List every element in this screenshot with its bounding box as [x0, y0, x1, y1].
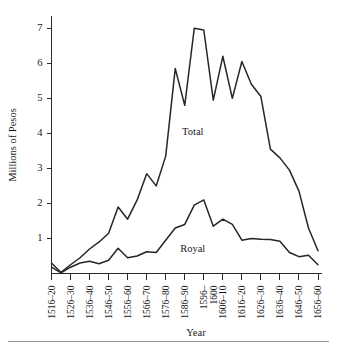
- y-tick-label: 7: [37, 22, 42, 33]
- series-annotation-group: TotalRoyal: [180, 126, 205, 254]
- x-tick-label: 1636–40: [275, 285, 285, 319]
- x-tick-label-group: 1526–30: [66, 285, 76, 319]
- series-line-royal: [52, 200, 319, 273]
- y-tick-label: 1: [37, 232, 42, 243]
- x-tick-label-group: 1546–50: [104, 285, 114, 319]
- y-axis-title: Millions of Pesos: [7, 108, 18, 182]
- x-axis: 1516–201526–301536–401546–501556–601566–…: [47, 274, 324, 339]
- x-tick-label: 1536–40: [85, 285, 95, 319]
- x-tick-label-group: 1516–20: [47, 285, 57, 319]
- x-tick-label: 1646–50: [294, 285, 304, 319]
- x-axis-ticks: [52, 274, 319, 280]
- x-tick-label-group: 1616–20: [237, 285, 247, 319]
- x-tick-label: 1576–80: [161, 285, 171, 319]
- series-line-total: [52, 28, 319, 272]
- x-tick-label-group: 1566–70: [142, 285, 152, 319]
- y-tick-label: 2: [37, 197, 42, 208]
- chart-figure: 1234567 Millions of Pesos 1516–201526–30…: [0, 0, 337, 348]
- x-tick-label: 1616–20: [237, 285, 247, 319]
- x-tick-label-group: 1626–30: [256, 285, 266, 319]
- x-tick-label: 1546–50: [104, 285, 114, 319]
- y-tick-label: 5: [37, 92, 42, 103]
- series-label-royal: Royal: [180, 243, 205, 254]
- y-tick-label: 6: [37, 57, 42, 68]
- x-tick-label-group: 1586–90: [180, 285, 190, 319]
- x-tick-label-group: 1536–40: [85, 285, 95, 319]
- x-tick-label: 1586–90: [180, 285, 190, 319]
- x-tick-label-group: 1636–40: [275, 285, 285, 319]
- x-tick-label: 1556–60: [123, 285, 133, 319]
- y-tick-label: 3: [37, 162, 42, 173]
- x-tick-label-group: 1596–1600: [199, 285, 219, 309]
- x-tick-label: 1526–30: [66, 285, 76, 319]
- y-tick-label: 4: [37, 127, 43, 138]
- line-chart: 1234567 Millions of Pesos 1516–201526–30…: [0, 0, 337, 348]
- series-label-total: Total: [182, 126, 204, 137]
- y-axis-ticks: 1234567: [37, 22, 51, 243]
- x-tick-label: 1656–60: [313, 285, 323, 319]
- x-tick-label: 1516–20: [47, 285, 57, 319]
- data-series-group: [52, 28, 319, 273]
- x-tick-label: 1600: [209, 285, 219, 304]
- x-tick-label-group: 1576–80: [161, 285, 171, 319]
- x-axis-title: Year: [186, 327, 206, 338]
- y-axis: 1234567 Millions of Pesos: [7, 16, 52, 274]
- x-tick-label: 1596–: [199, 285, 209, 309]
- x-tick-label: 1566–70: [142, 285, 152, 319]
- x-tick-label-group: 1556–60: [123, 285, 133, 319]
- x-tick-label: 1606–10: [218, 285, 228, 319]
- x-tick-label-group: 1646–50: [294, 285, 304, 319]
- x-tick-label: 1626–30: [256, 285, 266, 319]
- x-axis-tick-labels: 1516–201526–301536–401546–501556–601566–…: [47, 285, 324, 319]
- x-tick-label-group: 1606–10: [218, 285, 228, 319]
- figure-bottom-rule: [8, 341, 329, 342]
- x-tick-label-group: 1656–60: [313, 285, 323, 319]
